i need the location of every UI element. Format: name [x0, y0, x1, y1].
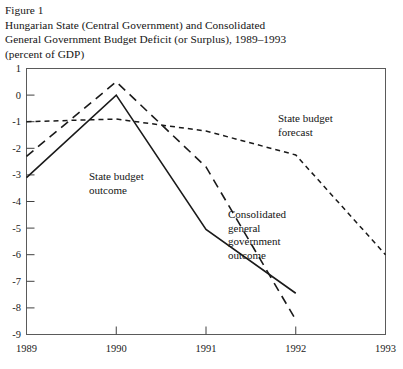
y-label-neg1: -1: [12, 116, 21, 127]
annotation-consolidated-line4: outcome: [228, 249, 266, 261]
y-label-1: 1: [16, 63, 21, 74]
annotation-state-budget-outcome-line1: State budget: [89, 170, 144, 182]
annotation-consolidated-general-government-outcome: Consolidated general government outcome: [228, 208, 287, 261]
x-axis-labels: 1989 1990 1991 1992 1993: [16, 343, 396, 354]
y-label-neg4: -4: [12, 196, 21, 207]
x-label-1992: 1992: [285, 343, 306, 354]
annotation-state-budget-forecast-line2: forecast: [278, 126, 313, 138]
x-label-1990: 1990: [106, 343, 127, 354]
annotation-consolidated-line3: government: [228, 235, 281, 247]
annotation-state-budget-forecast-line1: State budget: [278, 112, 333, 124]
y-axis-ticks: [27, 95, 35, 308]
annotation-state-budget-forecast: State budget forecast: [278, 112, 333, 138]
y-axis-labels: 1 0 -1 -2 -3 -4 -5 -6 -7 -8 -9: [12, 63, 21, 340]
x-label-1993: 1993: [375, 343, 396, 354]
figure-container: Figure 1 Hungarian State (Central Govern…: [0, 0, 403, 369]
plot-border: [27, 69, 386, 335]
y-label-neg8: -8: [12, 302, 21, 313]
annotation-state-budget-outcome-line2: outcome: [89, 184, 127, 196]
annotation-state-budget-outcome: State budget outcome: [89, 170, 144, 196]
y-label-neg7: -7: [12, 276, 21, 287]
x-axis-ticks: [116, 327, 296, 335]
plot-frame: [27, 69, 386, 335]
annotation-consolidated-line2: general: [228, 222, 260, 234]
y-label-neg2: -2: [12, 143, 21, 154]
annotation-consolidated-line1: Consolidated: [228, 208, 287, 220]
x-label-1989: 1989: [16, 343, 37, 354]
y-label-0: 0: [16, 90, 21, 101]
line-chart: 1 0 -1 -2 -3 -4 -5 -6 -7 -8 -9 1989 1990…: [0, 0, 403, 369]
series-line-state-budget-forecast: [27, 119, 386, 255]
y-label-neg3: -3: [12, 169, 21, 180]
x-label-1991: 1991: [196, 343, 217, 354]
y-label-neg6: -6: [12, 249, 21, 260]
y-label-neg5: -5: [12, 223, 21, 234]
y-label-neg9: -9: [12, 329, 21, 340]
series-line-consolidated-general-government-outcome: [27, 82, 296, 320]
